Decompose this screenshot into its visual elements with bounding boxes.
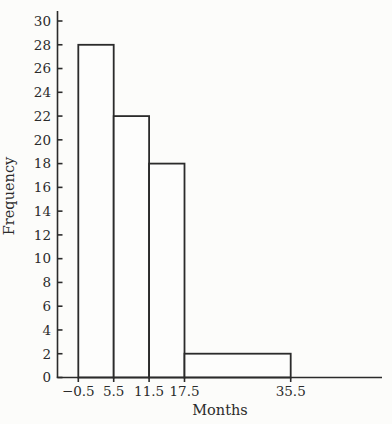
x-axis-title: Months — [192, 402, 248, 418]
y-tick-label: 4 — [42, 322, 51, 338]
x-tick-label: 11.5 — [134, 383, 164, 399]
y-tick-label: 2 — [42, 346, 51, 362]
x-tick-label: 5.5 — [103, 383, 124, 399]
y-axis-title: Frequency — [1, 156, 17, 235]
y-tick-label: 30 — [34, 13, 51, 29]
y-tick-label: 26 — [34, 60, 51, 76]
y-tick-label: 10 — [34, 250, 51, 266]
y-tick-label: 6 — [42, 298, 51, 314]
histogram-chart: 024681012141618202224262830−0.55.511.517… — [0, 0, 392, 424]
y-tick-label: 22 — [34, 108, 51, 124]
histogram-bar — [149, 164, 184, 378]
y-tick-label: 24 — [34, 84, 51, 100]
x-tick-label: 17.5 — [169, 383, 199, 399]
y-tick-label: 0 — [42, 369, 51, 385]
histogram-figure: 024681012141618202224262830−0.55.511.517… — [0, 0, 392, 424]
x-tick-label: 35.5 — [276, 383, 306, 399]
y-tick-label: 28 — [34, 37, 51, 53]
y-tick-label: 14 — [34, 203, 51, 219]
x-tick-label: −0.5 — [62, 383, 95, 399]
histogram-bar — [78, 45, 113, 378]
y-tick-label: 18 — [34, 155, 51, 171]
y-tick-label: 20 — [34, 132, 51, 148]
y-tick-label: 8 — [42, 274, 51, 290]
y-tick-label: 12 — [34, 227, 51, 243]
histogram-bar — [114, 116, 149, 377]
y-tick-label: 16 — [34, 179, 51, 195]
histogram-bar — [185, 354, 291, 378]
